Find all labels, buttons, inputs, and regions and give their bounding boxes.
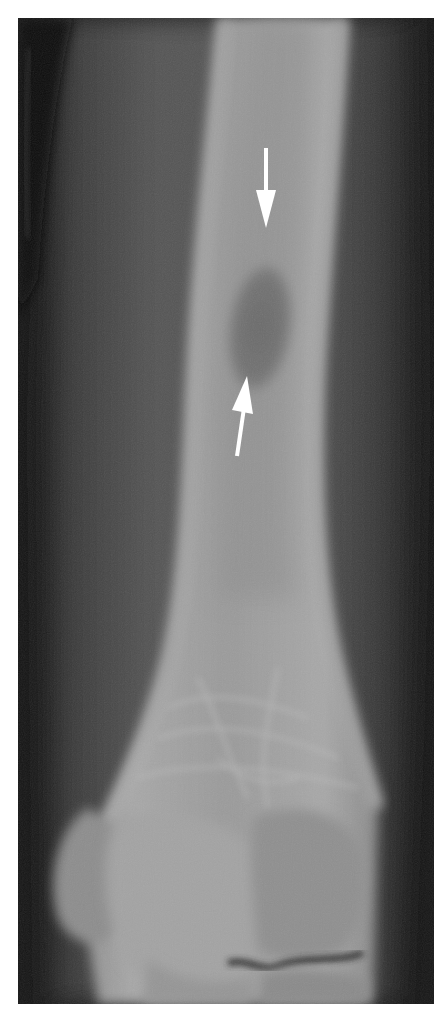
film-grain bbox=[18, 18, 434, 1004]
xray-image bbox=[18, 18, 434, 1004]
xray-svg bbox=[18, 18, 434, 1004]
